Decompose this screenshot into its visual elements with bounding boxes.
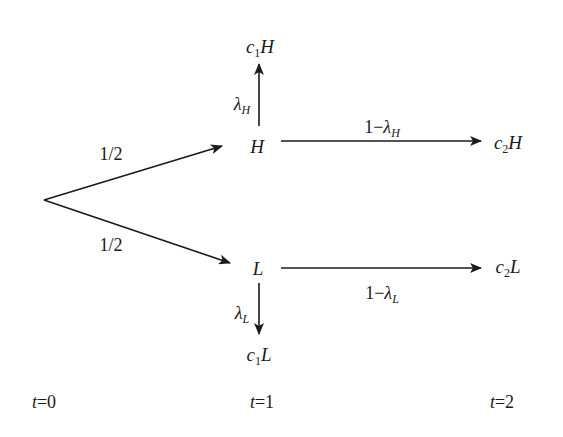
one-minus-prefix: 1− bbox=[364, 117, 383, 137]
tree-edges bbox=[0, 0, 563, 437]
probability-tree-diagram: 1/2 1/2 H L c1H c2H c2L c1L λH 1−λH λL 1… bbox=[0, 0, 563, 437]
node-c2H: c2H bbox=[494, 133, 522, 155]
time-value: =1 bbox=[255, 392, 274, 412]
edge-root-to-H bbox=[44, 146, 222, 200]
node-L: L bbox=[253, 259, 264, 278]
lambda-symbol: λ bbox=[234, 94, 242, 114]
c1L-state: L bbox=[261, 344, 272, 365]
edge-root-to-L bbox=[44, 200, 230, 263]
edge-label-lambda-L: λL bbox=[235, 303, 249, 325]
prob-label-to-L: 1/2 bbox=[99, 236, 122, 254]
lambda-sub: L bbox=[392, 292, 399, 306]
lambda-sub: H bbox=[242, 103, 251, 117]
edge-label-one-minus-lambda-H: 1−λH bbox=[364, 117, 400, 139]
lambda-symbol: λ bbox=[383, 117, 391, 137]
c2H-state: H bbox=[508, 132, 522, 153]
time-label-t1: t=1 bbox=[250, 393, 274, 411]
lambda-sub: L bbox=[243, 312, 250, 326]
time-value: =0 bbox=[37, 392, 56, 412]
one-minus-prefix: 1− bbox=[365, 283, 384, 303]
edge-label-lambda-H: λH bbox=[234, 94, 250, 116]
time-label-t2: t=2 bbox=[490, 393, 514, 411]
lambda-symbol: λ bbox=[235, 303, 243, 323]
time-value: =2 bbox=[495, 392, 514, 412]
node-c1L: c1L bbox=[246, 345, 271, 367]
c1H-state: H bbox=[260, 36, 274, 57]
time-label-t0: t=0 bbox=[32, 393, 56, 411]
edge-label-one-minus-lambda-L: 1−λL bbox=[365, 283, 399, 305]
node-c2L: c2L bbox=[495, 257, 520, 279]
prob-label-to-H: 1/2 bbox=[99, 145, 122, 163]
lambda-symbol: λ bbox=[384, 283, 392, 303]
node-H: H bbox=[250, 137, 264, 156]
c2L-state: L bbox=[510, 256, 521, 277]
node-c1H: c1H bbox=[246, 37, 274, 59]
lambda-sub: H bbox=[391, 126, 400, 140]
